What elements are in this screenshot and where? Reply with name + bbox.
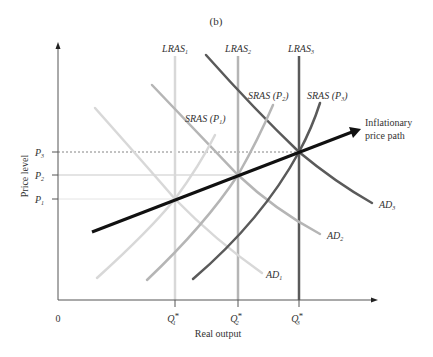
lras-1-label: LRAS1 bbox=[161, 43, 188, 55]
ad-2-label: AD2 bbox=[326, 230, 343, 242]
sras-curves bbox=[97, 103, 320, 280]
y-axis-arrow-icon bbox=[56, 42, 61, 49]
ad-1-label: AD1 bbox=[265, 269, 282, 281]
ad-3-curve bbox=[206, 55, 372, 203]
sras-2-curve bbox=[147, 105, 273, 280]
x-axis-label: Real output bbox=[195, 328, 242, 339]
y-tick-label-p3: P3 bbox=[34, 147, 44, 159]
price-guides bbox=[58, 152, 299, 199]
y-tick-label-p2: P2 bbox=[34, 170, 44, 182]
x-tick-label-q1: Q*1 bbox=[167, 311, 179, 326]
inflationary-price-path bbox=[92, 127, 361, 232]
y-axis-label: Price level bbox=[19, 155, 30, 198]
sras-1-label: SRAS (P1) bbox=[185, 113, 226, 125]
ad-as-inflation-diagram: (b) bbox=[0, 0, 433, 357]
sras-2-label: SRAS (P2) bbox=[248, 90, 289, 102]
origin-label: 0 bbox=[56, 313, 61, 324]
price-path-label-line2: price path bbox=[365, 130, 405, 141]
lras-3-label: LRAS3 bbox=[287, 43, 314, 55]
y-tick-label-p1: P1 bbox=[34, 194, 44, 206]
x-tick-label-q2: Q*2 bbox=[230, 311, 242, 326]
lras-2-label: LRAS2 bbox=[224, 43, 251, 55]
x-tick-label-q3: Q*3 bbox=[291, 311, 303, 326]
price-path-label-line1: Inflationary bbox=[365, 117, 412, 128]
x-axis-arrow-icon bbox=[371, 298, 378, 303]
panel-label: (b) bbox=[210, 15, 223, 28]
ad-3-label: AD3 bbox=[378, 199, 395, 211]
sras-3-label: SRAS (P3) bbox=[307, 90, 348, 102]
